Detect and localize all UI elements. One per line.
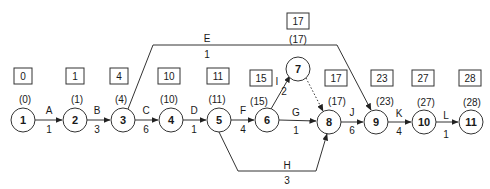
duration-label-a: 1 [46,124,52,135]
paren-time-5: (11) [208,94,225,105]
time-box-value-1: 0 [20,71,26,82]
node-7: 7 [286,57,310,81]
node-label-7: 7 [295,63,301,75]
activity-label-l: L [443,110,449,121]
activity-label-h: H [283,160,290,171]
duration-label-l: 1 [443,129,449,140]
duration-label-f: 4 [240,124,246,135]
paren-time-3: (4) [115,94,127,105]
time-box-value-3: 4 [116,71,122,82]
node-2: 2 [63,108,87,132]
duration-label-b: 3 [94,124,100,135]
time-box-value-5: 11 [213,71,224,82]
paren-time-8: (17) [328,96,346,107]
paren-time-7: (17) [289,34,307,45]
activity-label-e: E [204,33,211,44]
duration-label-d: 1 [191,124,197,135]
edge-h-arrow [219,132,327,171]
node-label-4: 4 [168,114,175,126]
time-box-value-8: 17 [330,73,342,84]
activity-label-j: J [350,107,355,118]
node-label-9: 9 [373,116,379,128]
duration-label-c: 6 [143,124,149,135]
duration-label-i: 2 [281,86,287,97]
time-box-value-4: 10 [163,71,175,82]
activity-label-f: F [240,105,246,116]
node-label-8: 8 [326,116,332,128]
duration-label-h: 3 [284,175,290,186]
time-boxes: 0 1 4 10 11 15 17 17 23 27 28 [14,13,481,86]
time-box-value-7: 17 [292,16,304,27]
duration-label-k: 4 [396,126,402,137]
node-3: 3 [111,108,135,132]
activity-label-i: I [276,76,279,87]
duration-label-j: 6 [349,125,355,136]
activity-label-d: D [190,105,197,116]
time-box-value-11: 28 [464,73,476,84]
activity-label-k: K [396,108,403,119]
time-box-value-9: 23 [376,73,388,84]
node-label-11: 11 [465,116,477,128]
paren-time-1: (0) [19,94,31,105]
node-label-3: 3 [120,114,126,126]
activity-label-g: G [292,107,300,118]
node-4: 4 [159,108,183,132]
paren-time-11: (28) [463,97,481,108]
node-6: 6 [255,108,279,132]
edge-g-arrow [279,120,316,121]
time-box-value-2: 1 [72,71,78,82]
paren-time-4: (10) [160,94,178,105]
node-label-2: 2 [72,114,78,126]
node-5: 5 [207,108,231,132]
activity-label-c: C [142,105,149,116]
node-label-5: 5 [216,114,222,126]
node-1: 1 [11,108,35,132]
node-label-10: 10 [418,116,430,128]
time-box-value-10: 27 [417,73,429,84]
edge-dummy-arrow [306,78,323,111]
node-10: 10 [412,110,436,134]
node-9: 9 [364,110,388,134]
duration-label-g: 1 [293,125,299,136]
activity-label-b: B [94,105,101,116]
time-box-value-6: 15 [255,73,267,84]
paren-time-9: (23) [376,96,394,107]
paren-time-6: (15) [250,96,268,107]
edge-labels: A 1 B 3 C 6 D 1 E 1 F 4 G 1 H 3 I 2 J 6 … [46,33,450,186]
paren-time-10: (27) [417,97,435,108]
activity-label-a: A [46,105,53,116]
network-diagram: A 1 B 3 C 6 D 1 E 1 F 4 G 1 H 3 I 2 J 6 … [0,0,490,189]
duration-label-e: 1 [204,49,210,60]
node-label-1: 1 [20,114,26,126]
node-11: 11 [459,110,483,134]
node-8: 8 [317,110,341,134]
paren-time-2: (1) [71,94,83,105]
node-label-6: 6 [264,114,270,126]
